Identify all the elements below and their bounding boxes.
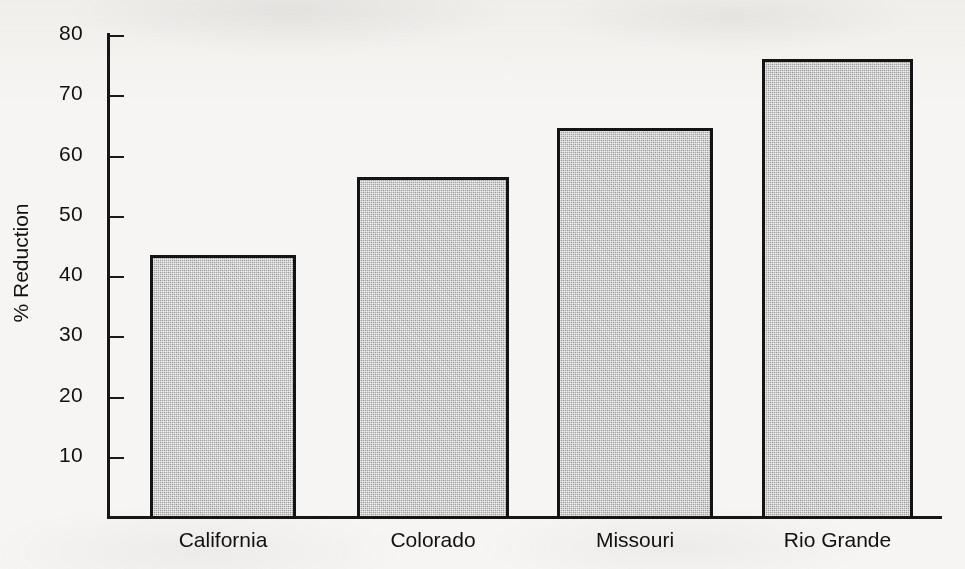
x-axis-label: Rio Grande <box>762 528 913 552</box>
x-axis-label: Colorado <box>357 528 509 552</box>
bar <box>762 59 913 519</box>
bar <box>557 128 713 519</box>
y-tick-label: 30 <box>23 322 83 346</box>
y-tick-label: 40 <box>23 262 83 286</box>
y-tick-label: 80 <box>23 21 83 45</box>
bar <box>150 255 296 519</box>
y-tick-label: 70 <box>23 81 83 105</box>
y-tick-label: 60 <box>23 142 83 166</box>
y-tick-mark <box>110 457 124 459</box>
y-tick-mark <box>110 156 124 158</box>
y-tick-mark <box>110 95 124 97</box>
y-tick-mark <box>110 397 124 399</box>
y-tick-mark <box>110 276 124 278</box>
y-tick-label: 50 <box>23 202 83 226</box>
x-axis-label: California <box>150 528 296 552</box>
y-tick-mark <box>110 336 124 338</box>
y-tick-label: 10 <box>23 443 83 467</box>
x-axis-label: Missouri <box>557 528 713 552</box>
bar-chart: % Reduction 1020304050607080 CaliforniaC… <box>0 0 965 569</box>
chart-page: % Reduction 1020304050607080 CaliforniaC… <box>0 0 965 569</box>
bar <box>357 177 509 519</box>
y-tick-label: 20 <box>23 383 83 407</box>
y-tick-mark <box>110 35 124 37</box>
y-tick-mark <box>110 216 124 218</box>
